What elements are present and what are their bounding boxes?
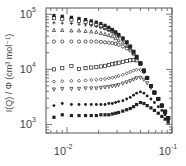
series-s7 — [52, 68, 169, 120]
y-axis-label: I(Q) / Φ (cm³ mol⁻¹) — [4, 34, 14, 113]
y-tick-label: 104 — [20, 61, 36, 75]
series-s3 — [52, 21, 169, 120]
x-tick-label: 10-1 — [159, 143, 178, 157]
saxs-log-log-chart: 10-210-1103104105 I(Q) / Φ (cm³ mol⁻¹) — [0, 0, 186, 166]
series-s10 — [52, 101, 169, 124]
series-s6 — [52, 58, 169, 119]
x-tick-label: 10-2 — [54, 143, 73, 157]
y-tick-label: 103 — [20, 116, 36, 130]
y-tick-label: 105 — [20, 6, 36, 20]
